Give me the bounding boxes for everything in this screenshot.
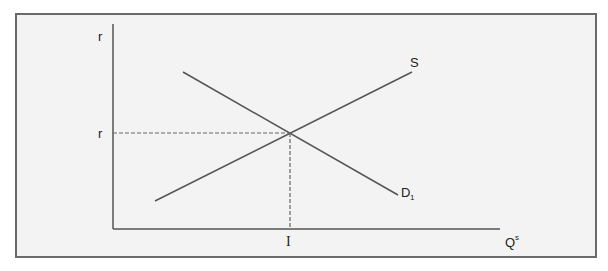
equilibrium-quantity-label: I: [286, 234, 291, 249]
x-axis-label: Q: [505, 235, 515, 250]
supply-label: S: [410, 55, 419, 70]
equilibrium-rate-label: r: [98, 126, 103, 141]
supply-demand-diagram: r r I S D 1 Q s: [0, 0, 608, 271]
y-axis-label: r: [98, 29, 103, 44]
x-axis-label-superscript: s: [515, 233, 519, 242]
demand-label: D: [401, 185, 410, 200]
demand-label-subscript: 1: [410, 193, 415, 202]
